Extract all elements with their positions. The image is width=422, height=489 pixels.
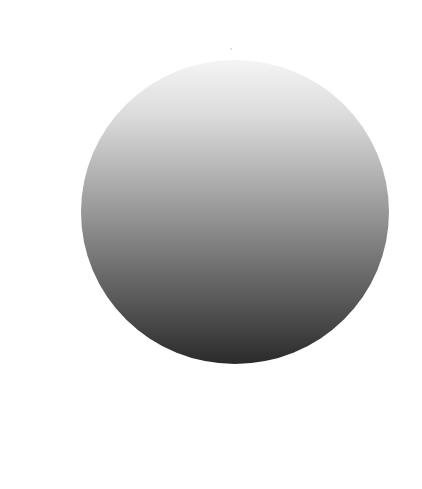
speck-dot [230, 48, 232, 50]
gradient-sphere [81, 60, 389, 364]
canvas [0, 0, 422, 489]
